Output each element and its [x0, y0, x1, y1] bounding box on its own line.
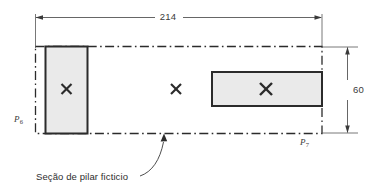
annotation-leader-group [140, 134, 167, 177]
arrowhead-left [36, 15, 44, 20]
dimension-label-depth: 60 [353, 84, 364, 95]
marker-middle-x-icon [171, 84, 181, 94]
arrowhead-right [315, 15, 323, 20]
leader-curve [140, 142, 164, 176]
engineering-drawing-figure: 214 60 P6 P7 Seção de pilar ficticio [0, 0, 370, 195]
dimension-214-group [36, 14, 323, 48]
drawing-canvas [0, 0, 370, 195]
arrowhead-bottom [345, 126, 350, 134]
dimension-label-length: 214 [160, 11, 176, 22]
node-label-p6: P6 [14, 114, 23, 124]
node-label-p6-subscript: 6 [20, 118, 23, 125]
node-label-p7-symbol: P [300, 137, 306, 147]
arrowhead-top [345, 47, 350, 55]
node-label-p7: P7 [300, 137, 309, 147]
node-label-p7-subscript: 7 [306, 141, 309, 148]
node-label-p6-symbol: P [14, 114, 20, 124]
annotation-caption: Seção de pilar ficticio [36, 171, 128, 182]
leader-arrowhead [161, 134, 168, 142]
